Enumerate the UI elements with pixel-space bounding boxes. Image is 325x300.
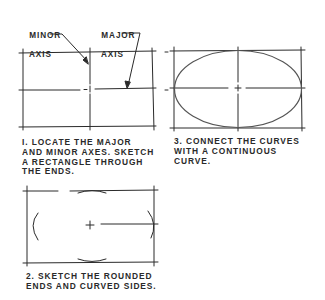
figure-1-axes [19,48,156,130]
minor-axis-label-line-2: AXIS [29,50,52,59]
figure-1-rectangle [19,48,156,130]
major-axis-label-line-2: AXIS [101,50,124,59]
minor-axis-label: MINOR AXIS [23,21,61,59]
step-2-caption: 2. SKETCH THE ROUNDED ENDS AND CURVED SI… [26,272,157,292]
minor-axis-label-line-1: MINOR [29,31,61,40]
major-axis-label: MAJOR AXIS [95,21,135,59]
major-axis-label-line-1: MAJOR [101,31,135,40]
figure-2-axes [86,221,158,229]
figure-2-arcs [33,191,154,262]
step-3-caption: 3. CONNECT THE CURVES WITH A CONTINUOUS … [174,137,300,166]
figure-3-axes [170,47,305,131]
step-3-line-3: CURVE. [174,157,300,167]
step-1-line-4: THE ENDS. [22,167,154,177]
step-2-line-2: ENDS AND CURVED SIDES. [26,282,157,292]
step-1-caption: I. LOCATE THE MAJOR AND MINOR AXES. SKET… [22,138,154,177]
